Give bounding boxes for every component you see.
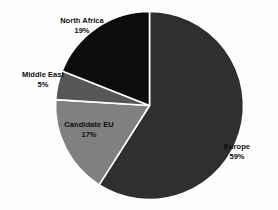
pie-slice-group (56, 12, 244, 200)
pie-label-candidate-eu: Candidate EU 17% (42, 120, 136, 139)
pie-label-europe-name: Europe (206, 142, 268, 152)
pie-label-europe: Europe 59% (206, 142, 268, 161)
pie-label-north-africa: North Africa 19% (36, 16, 128, 35)
pie-label-north-africa-percent: 19% (36, 26, 128, 36)
pie-label-middle-east: Middle East 5% (2, 70, 84, 89)
pie-label-candidate-eu-name: Candidate EU (42, 120, 136, 130)
pie-chart: North Africa 19% Middle East 5% Candidat… (0, 0, 278, 210)
pie-label-north-africa-name: North Africa (36, 16, 128, 26)
pie-label-middle-east-percent: 5% (2, 80, 84, 90)
pie-label-europe-percent: 59% (206, 152, 268, 162)
pie-label-candidate-eu-percent: 17% (42, 130, 136, 140)
pie-label-middle-east-name: Middle East (2, 70, 84, 80)
